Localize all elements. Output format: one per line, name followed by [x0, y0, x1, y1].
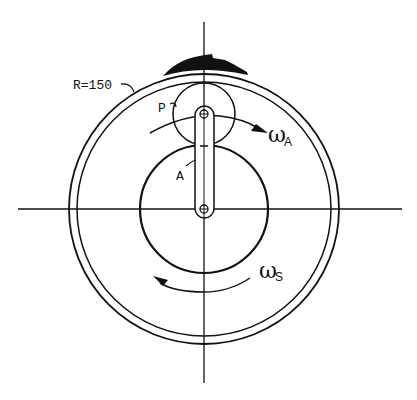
contact-patch — [163, 54, 248, 76]
ring-radius-leader — [121, 84, 134, 92]
planet-label: P — [158, 101, 166, 116]
omega-arm-subscript: A — [284, 135, 292, 149]
omega-sun-subscript: S — [275, 270, 283, 284]
ring-radius-label: R=150 — [73, 78, 112, 93]
planetary-gear-diagram: R=150 P A ω A ω S — [0, 0, 417, 400]
planet-leader — [170, 103, 176, 107]
arm-label: A — [176, 169, 184, 184]
sun-rotation-arrow — [160, 278, 250, 292]
sun-rotation-arrowhead — [153, 276, 168, 286]
